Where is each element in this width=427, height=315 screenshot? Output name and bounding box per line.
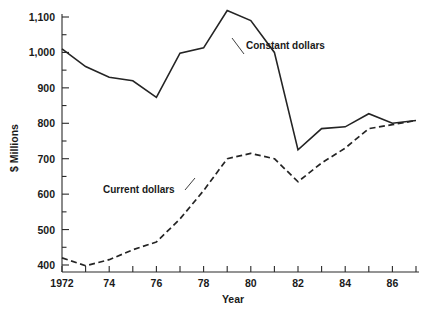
x-tick-label: 76 — [151, 277, 163, 289]
annotation-current-dollars: Current dollars — [103, 184, 175, 195]
x-tick-label: 84 — [339, 277, 351, 289]
y-axis-tick-labels: 4005006007008009001,0001,100 — [29, 11, 55, 271]
current-dollars-leader-line — [185, 178, 195, 190]
x-axis-tick-labels: 197274767880828486 — [50, 277, 398, 289]
y-tick-label: 400 — [37, 259, 55, 271]
line-chart: 4005006007008009001,0001,100 19727476788… — [0, 0, 427, 315]
x-tick-label: 82 — [292, 277, 304, 289]
y-tick-label: 500 — [37, 224, 55, 236]
chart-container: 4005006007008009001,0001,100 19727476788… — [0, 0, 427, 315]
x-tick-label: 80 — [245, 277, 257, 289]
x-tick-label: 86 — [387, 277, 399, 289]
y-tick-label: 1,000 — [29, 46, 55, 58]
constant-dollars-leader-line — [232, 38, 244, 54]
y-tick-label: 900 — [37, 82, 55, 94]
x-tick-label: 74 — [103, 277, 115, 289]
y-tick-label: 800 — [37, 117, 55, 129]
y-tick-label: 1,100 — [29, 11, 55, 23]
x-tick-label: 78 — [198, 277, 210, 289]
x-tick-label: 1972 — [50, 277, 74, 289]
annotation-constant-dollars: Constant dollars — [246, 40, 325, 51]
x-axis-title: Year — [222, 293, 244, 305]
x-axis-ticks — [62, 266, 416, 272]
series-constant-dollars-line — [62, 11, 416, 150]
y-tick-label: 700 — [37, 153, 55, 165]
y-tick-label: 600 — [37, 188, 55, 200]
y-axis-title: $ Millions — [8, 124, 20, 172]
